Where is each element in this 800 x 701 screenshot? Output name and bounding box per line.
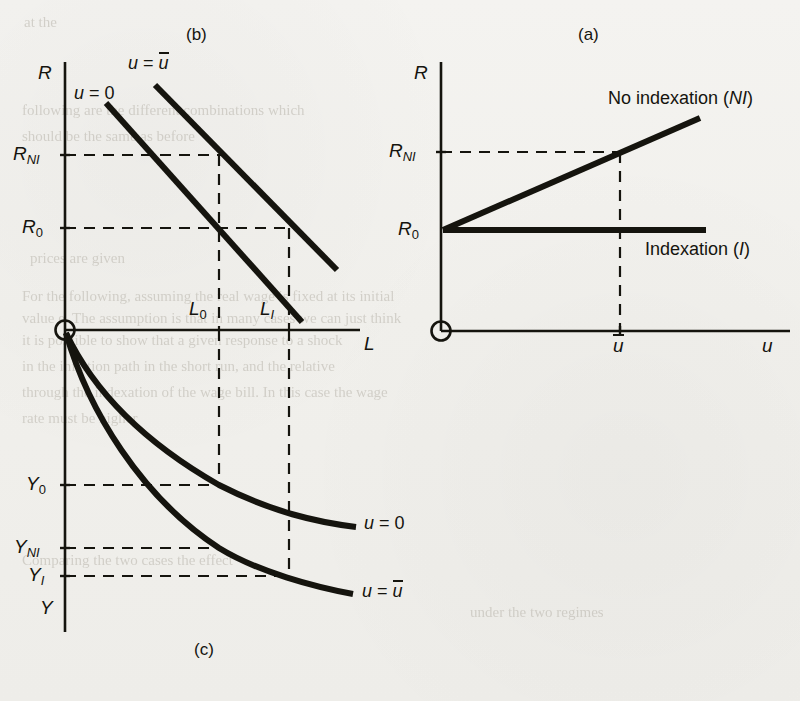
panel-a-x-axis-label: u <box>762 336 773 355</box>
panel-b-tag: (b) <box>186 26 207 43</box>
equals-symbol: = <box>372 581 393 601</box>
u-symbol: u <box>364 513 374 533</box>
panel-c-label-u-equals-zero: u = 0 <box>364 514 405 532</box>
panel-c <box>60 330 356 632</box>
panel-b-x-axis-label: L <box>364 334 375 353</box>
u-symbol: u <box>362 581 372 601</box>
ubar-symbol: u <box>159 54 169 72</box>
panel-b-y-axis-label: R <box>38 63 52 82</box>
panel-b-ytick-rni: RNI <box>13 144 40 166</box>
panel-a-series-label-no-indexation: No indexation (NI) <box>608 89 753 107</box>
panel-c-curve-u-equals-ubar <box>66 333 353 594</box>
panel-c-ytick-yi: YI <box>28 565 44 587</box>
panel-a-xtick-ubar: u <box>613 336 624 355</box>
panel-a-ytick-r0: R0 <box>398 219 419 241</box>
u-value: 0 <box>395 513 405 533</box>
panel-a-series-no-indexation <box>443 118 700 230</box>
panel-c-ytick-yni: YNI <box>14 537 40 559</box>
equals-symbol: = <box>138 53 159 73</box>
figure-root: at the following are the different combi… <box>0 0 800 701</box>
overline-bar <box>613 334 624 336</box>
ni-abbreviation: NI <box>729 88 747 108</box>
u-symbol: u <box>128 53 138 73</box>
panel-b-xtick-li: LI <box>260 299 274 321</box>
ubar-symbol: u <box>613 336 624 355</box>
panel-a-ytick-rni: RNI <box>389 141 416 163</box>
panel-a-tag: (a) <box>578 26 599 43</box>
panel-c-ytick-y0: Y0 <box>26 474 46 496</box>
panel-c-tag: (c) <box>194 641 214 658</box>
overline-bar <box>393 580 403 582</box>
u-value: 0 <box>105 83 115 103</box>
panel-b-xtick-l0: L0 <box>189 299 207 321</box>
panel-b-label-u-equals-ubar: u = u <box>128 54 169 72</box>
panel-a-y-axis-label: R <box>414 63 428 82</box>
panel-b-ytick-r0: R0 <box>22 217 43 239</box>
u-symbol: u <box>74 83 84 103</box>
equals-symbol: = <box>374 513 395 533</box>
panel-a-series-label-indexation: Indexation (I) <box>645 240 750 258</box>
panel-c-y-axis-label: Y <box>40 598 53 617</box>
ubar-symbol: u <box>393 582 403 600</box>
panel-b-curve-u-equals-ubar <box>155 85 337 270</box>
equals-symbol: = <box>84 83 105 103</box>
panel-c-label-u-equals-ubar: u = u <box>362 582 403 600</box>
overline-bar <box>159 52 169 54</box>
panel-b-label-u-equals-zero: u = 0 <box>74 84 115 102</box>
